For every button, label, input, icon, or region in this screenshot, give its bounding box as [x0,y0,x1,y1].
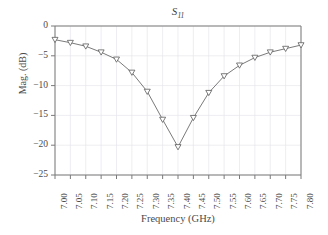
y-tick-label: −10 [2,80,48,90]
plot-area [55,26,301,175]
x-axis-label: Frequency (GHz) [55,213,301,224]
x-tick-label: 7.65 [258,193,268,209]
x-tick-label: 7.80 [305,193,315,209]
chart-figure: S11 Mag. (dB) 0−5−10−15−20−25 7.007.057.… [0,0,328,235]
x-tick-label: 7.00 [59,193,69,209]
x-tick-label: 7.25 [135,193,145,209]
y-tick-label: −5 [2,50,48,60]
x-axis-tick-labels: 7.007.057.107.157.207.257.307.357.407.45… [55,179,301,213]
chart-title-subscript: 11 [177,11,184,20]
x-tick-label: 7.15 [105,193,115,209]
y-tick-label: −20 [2,139,48,149]
x-tick-label: 7.10 [89,193,99,209]
x-tick-label: 7.45 [197,193,207,209]
axis-tick-marks [51,26,301,179]
x-tick-label: 7.70 [274,193,284,209]
x-tick-label: 7.35 [166,193,176,209]
plot-svg [55,26,301,175]
x-tick-label: 7.20 [120,193,130,209]
x-tick-label: 7.40 [182,193,192,209]
x-tick-label: 7.30 [151,193,161,209]
x-tick-label: 7.60 [243,193,253,209]
x-tick-label: 7.05 [74,193,84,209]
y-tick-label: 0 [2,20,48,30]
x-tick-label: 7.55 [228,193,238,209]
y-axis-tick-labels: 0−5−10−15−20−25 [0,26,48,175]
y-tick-label: −25 [2,169,48,179]
y-tick-label: −15 [2,109,48,119]
x-tick-label: 7.50 [212,193,222,209]
x-tick-label: 7.75 [289,193,299,209]
chart-title: S11 [55,5,301,20]
